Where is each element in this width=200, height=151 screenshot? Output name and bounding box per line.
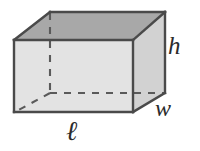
label-height: h — [168, 33, 181, 58]
rectangular-prism-figure: h w ℓ — [0, 0, 200, 151]
label-width: w — [155, 96, 171, 120]
prism-drawing — [0, 0, 200, 151]
front-face — [14, 40, 133, 112]
label-length: ℓ — [66, 117, 77, 144]
